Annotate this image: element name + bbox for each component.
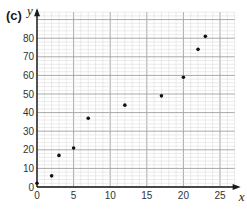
x-axis-label: x: [238, 189, 245, 204]
x-tick-label: 15: [141, 190, 153, 201]
data-point: [57, 154, 61, 158]
data-point: [50, 174, 54, 178]
y-tick-label: 80: [23, 33, 35, 44]
x-tick-label: 5: [71, 190, 77, 201]
x-tick-label: 0: [34, 190, 40, 201]
y-tick-label: 40: [23, 107, 35, 118]
y-axis-label: y: [25, 3, 33, 18]
x-tick-label: 10: [105, 190, 117, 201]
y-tick-label: 60: [23, 70, 35, 81]
data-point: [123, 103, 127, 107]
x-tick-label: 20: [178, 190, 190, 201]
y-tick-label: 70: [23, 51, 35, 62]
data-point: [182, 75, 186, 79]
data-point: [86, 116, 90, 120]
x-tick-label: 25: [214, 190, 226, 201]
data-point: [204, 35, 208, 39]
y-tick-label: 20: [23, 144, 35, 155]
data-point: [160, 94, 164, 98]
y-tick-label: 50: [23, 89, 35, 100]
data-point: [196, 48, 200, 52]
axes: yx: [25, 3, 245, 204]
y-tick-label: 30: [23, 126, 35, 137]
y-tick-label: 10: [23, 163, 35, 174]
grid: [37, 12, 235, 187]
y-tick-label: 0: [28, 182, 34, 193]
data-point: [72, 146, 76, 150]
data-point: [35, 181, 39, 185]
scatter-chart: yx 051015202501020304050607080: [0, 0, 247, 211]
